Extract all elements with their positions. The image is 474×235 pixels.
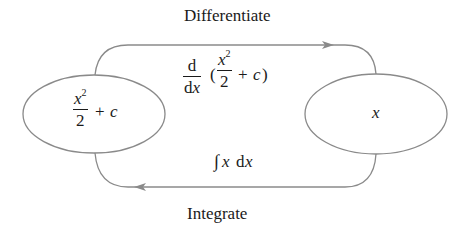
denominator: 2 xyxy=(219,73,230,90)
x2-over-2-fraction: x2 2 xyxy=(217,51,232,90)
exponent: 2 xyxy=(226,48,231,59)
x-variable: x xyxy=(74,89,82,108)
fraction-bar xyxy=(183,76,201,77)
derivative-formula: d dx ( x2 2 + c ) xyxy=(183,53,323,103)
dx-variable: x xyxy=(245,152,253,172)
integral-sign: ∫ xyxy=(214,151,219,172)
d-denominator: d xyxy=(184,78,193,97)
diagram-canvas xyxy=(0,0,474,235)
c-constant: c xyxy=(253,65,261,85)
fraction-bar xyxy=(73,109,88,110)
integrate-label: Integrate xyxy=(187,204,247,224)
plus-sign: + xyxy=(95,102,105,122)
close-paren: ) xyxy=(262,65,268,85)
x-variable: x xyxy=(222,152,230,172)
x-variable: x xyxy=(218,50,226,69)
denominator: 2 xyxy=(75,112,86,129)
d-operator: d xyxy=(236,152,245,172)
fraction-bar xyxy=(217,70,232,71)
differentiate-label: Differentiate xyxy=(184,6,271,26)
dx-variable: x xyxy=(193,78,201,97)
d-numerator: d xyxy=(187,57,198,74)
integral-formula: ∫ x d x xyxy=(214,151,274,175)
open-paren: ( xyxy=(210,65,216,85)
plus-sign: + xyxy=(238,65,248,85)
c-constant: c xyxy=(110,102,118,122)
d-dx-fraction: d dx xyxy=(183,57,201,96)
x2-over-2-fraction: x2 2 xyxy=(73,90,88,129)
left-node-formula: x2 2 + c xyxy=(73,90,133,140)
right-node-label: x xyxy=(372,103,380,123)
exponent: 2 xyxy=(82,87,87,98)
